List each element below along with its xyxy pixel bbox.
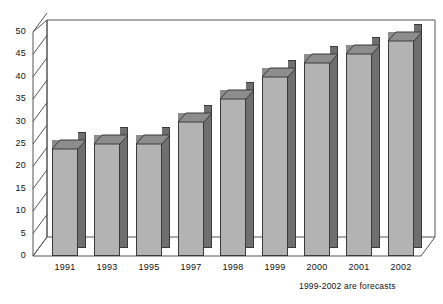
bar-front (346, 45, 372, 256)
bar-side (204, 105, 212, 248)
bar-front (262, 68, 288, 256)
bar-1993 (94, 32, 120, 256)
bar-side (414, 24, 422, 248)
bar-2000 (304, 32, 330, 256)
y-tick-label: 35 (2, 94, 26, 103)
bar-top (304, 54, 330, 62)
bar-front (52, 140, 78, 257)
y-tick-label: 20 (2, 161, 26, 170)
y-tick-label: 45 (2, 49, 26, 58)
bar-top (178, 113, 204, 121)
bar-2001 (346, 32, 372, 256)
bar-side (372, 37, 380, 248)
bar-side (288, 60, 296, 248)
y-tick-label: 25 (2, 139, 26, 148)
bar-1997 (178, 32, 204, 256)
plot-area: 50 45 40 35 30 25 20 15 10 5 0 (0, 0, 443, 304)
bar-front (388, 32, 414, 256)
x-tick-label-1993: 1993 (85, 262, 129, 272)
bar-side (120, 127, 128, 248)
y-tick-label: 30 (2, 117, 26, 126)
bar-front (220, 90, 246, 256)
bar-front (304, 54, 330, 256)
bar-1991 (52, 32, 78, 256)
forecast-note: 1999-2002 are forecasts (299, 281, 396, 291)
bar-2002 (388, 32, 414, 256)
y-tick-label: 0 (2, 251, 26, 260)
x-tick-label-1998: 1998 (211, 262, 255, 272)
x-tick-label-2002: 2002 (379, 262, 423, 272)
y-tick-label: 10 (2, 206, 26, 215)
bar-top (262, 68, 288, 76)
bar-front (94, 135, 120, 256)
bar-front (178, 113, 204, 256)
x-tick-label-2001: 2001 (337, 262, 381, 272)
x-tick-label-1999: 1999 (253, 262, 297, 272)
x-tick-label-2000: 2000 (295, 262, 339, 272)
bar-top (136, 135, 162, 143)
bar-top (220, 90, 246, 98)
bar-side (78, 132, 86, 249)
y-tick-label: 5 (2, 229, 26, 238)
bar-top (52, 140, 78, 148)
y-tick-label: 50 (2, 27, 26, 36)
x-tick-label-1991: 1991 (43, 262, 87, 272)
bar-1995 (136, 32, 162, 256)
bar-top (388, 32, 414, 40)
bar-1999 (262, 32, 288, 256)
bar-front (136, 135, 162, 256)
x-tick-label-1995: 1995 (127, 262, 171, 272)
y-tick-label: 15 (2, 184, 26, 193)
bar-top (346, 45, 372, 53)
bar-side (330, 46, 338, 248)
y-tick-label: 40 (2, 72, 26, 81)
x-tick-label-1997: 1997 (169, 262, 213, 272)
bar-side (162, 127, 170, 248)
bar-side (246, 82, 254, 248)
chart-container: 50 45 40 35 30 25 20 15 10 5 0 (0, 0, 443, 304)
bar-top (94, 135, 120, 143)
bar-1998 (220, 32, 246, 256)
